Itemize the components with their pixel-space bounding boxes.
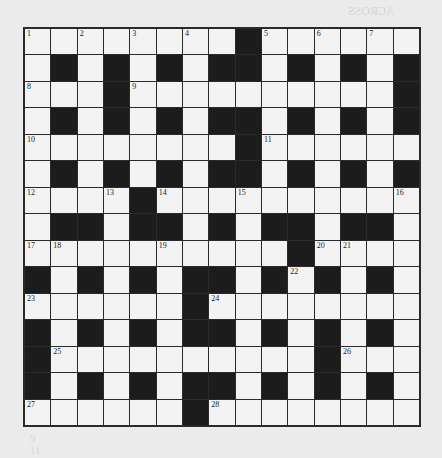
answer-cell[interactable]	[262, 82, 287, 107]
answer-cell[interactable]	[315, 135, 340, 160]
answer-cell[interactable]: 4	[183, 29, 208, 54]
answer-cell[interactable]	[236, 82, 261, 107]
answer-cell[interactable]	[236, 241, 261, 266]
answer-cell[interactable]	[78, 188, 103, 213]
answer-cell[interactable]	[236, 267, 261, 292]
answer-cell[interactable]	[288, 135, 313, 160]
answer-cell[interactable]: 6	[315, 29, 340, 54]
answer-cell[interactable]	[315, 188, 340, 213]
answer-cell[interactable]	[78, 82, 103, 107]
answer-cell[interactable]	[288, 294, 313, 319]
answer-cell[interactable]: 1	[25, 29, 50, 54]
answer-cell[interactable]: 19	[157, 241, 182, 266]
answer-cell[interactable]	[209, 82, 234, 107]
answer-cell[interactable]: 21	[341, 241, 366, 266]
answer-cell[interactable]: 12	[25, 188, 50, 213]
answer-cell[interactable]	[367, 294, 392, 319]
answer-cell[interactable]	[130, 347, 155, 372]
answer-cell[interactable]	[209, 135, 234, 160]
answer-cell[interactable]: 5	[262, 29, 287, 54]
answer-cell[interactable]	[78, 135, 103, 160]
answer-cell[interactable]	[51, 135, 76, 160]
answer-cell[interactable]: 14	[157, 188, 182, 213]
answer-cell[interactable]: 17	[25, 241, 50, 266]
answer-cell[interactable]	[157, 267, 182, 292]
answer-cell[interactable]	[78, 108, 103, 133]
answer-cell[interactable]	[394, 135, 419, 160]
answer-cell[interactable]	[288, 320, 313, 345]
answer-cell[interactable]	[130, 161, 155, 186]
answer-cell[interactable]	[130, 241, 155, 266]
answer-cell[interactable]	[157, 29, 182, 54]
answer-cell[interactable]	[394, 320, 419, 345]
answer-cell[interactable]	[157, 400, 182, 425]
answer-cell[interactable]	[183, 82, 208, 107]
answer-cell[interactable]	[262, 108, 287, 133]
answer-cell[interactable]	[394, 29, 419, 54]
answer-cell[interactable]	[51, 188, 76, 213]
answer-cell[interactable]	[341, 400, 366, 425]
answer-cell[interactable]	[51, 267, 76, 292]
answer-cell[interactable]	[315, 294, 340, 319]
answer-cell[interactable]	[394, 241, 419, 266]
answer-cell[interactable]	[341, 294, 366, 319]
answer-cell[interactable]	[367, 347, 392, 372]
answer-cell[interactable]	[104, 320, 129, 345]
answer-cell[interactable]	[394, 373, 419, 398]
answer-cell[interactable]	[236, 400, 261, 425]
answer-cell[interactable]	[157, 347, 182, 372]
answer-cell[interactable]	[183, 241, 208, 266]
answer-cell[interactable]	[394, 400, 419, 425]
answer-cell[interactable]	[236, 347, 261, 372]
answer-cell[interactable]	[183, 214, 208, 239]
answer-cell[interactable]	[209, 188, 234, 213]
answer-cell[interactable]	[157, 82, 182, 107]
answer-cell[interactable]	[315, 400, 340, 425]
answer-cell[interactable]	[288, 347, 313, 372]
answer-cell[interactable]	[51, 82, 76, 107]
answer-cell[interactable]	[104, 267, 129, 292]
answer-cell[interactable]	[157, 294, 182, 319]
answer-cell[interactable]: 2	[78, 29, 103, 54]
answer-cell[interactable]	[288, 188, 313, 213]
answer-cell[interactable]	[262, 161, 287, 186]
answer-cell[interactable]: 3	[130, 29, 155, 54]
answer-cell[interactable]	[262, 188, 287, 213]
answer-cell[interactable]: 16	[394, 188, 419, 213]
answer-cell[interactable]	[315, 214, 340, 239]
answer-cell[interactable]	[130, 400, 155, 425]
answer-cell[interactable]	[315, 82, 340, 107]
answer-cell[interactable]	[130, 294, 155, 319]
answer-cell[interactable]	[104, 29, 129, 54]
answer-cell[interactable]	[183, 55, 208, 80]
answer-cell[interactable]	[394, 267, 419, 292]
answer-cell[interactable]	[367, 241, 392, 266]
answer-cell[interactable]	[78, 400, 103, 425]
answer-cell[interactable]	[262, 400, 287, 425]
answer-cell[interactable]	[341, 320, 366, 345]
answer-cell[interactable]	[25, 108, 50, 133]
answer-cell[interactable]	[288, 29, 313, 54]
answer-cell[interactable]	[78, 161, 103, 186]
answer-cell[interactable]	[236, 320, 261, 345]
answer-cell[interactable]	[209, 241, 234, 266]
answer-cell[interactable]	[183, 108, 208, 133]
answer-cell[interactable]: 18	[51, 241, 76, 266]
answer-cell[interactable]	[78, 294, 103, 319]
answer-cell[interactable]	[367, 161, 392, 186]
answer-cell[interactable]: 28	[209, 400, 234, 425]
answer-cell[interactable]	[394, 294, 419, 319]
answer-cell[interactable]	[288, 373, 313, 398]
answer-cell[interactable]	[341, 188, 366, 213]
answer-cell[interactable]: 24	[209, 294, 234, 319]
answer-cell[interactable]	[209, 29, 234, 54]
answer-cell[interactable]	[51, 320, 76, 345]
answer-cell[interactable]	[262, 347, 287, 372]
answer-cell[interactable]	[183, 161, 208, 186]
answer-cell[interactable]	[394, 347, 419, 372]
answer-cell[interactable]	[130, 135, 155, 160]
answer-cell[interactable]	[130, 55, 155, 80]
answer-cell[interactable]	[51, 29, 76, 54]
answer-cell[interactable]	[262, 55, 287, 80]
answer-cell[interactable]	[104, 241, 129, 266]
